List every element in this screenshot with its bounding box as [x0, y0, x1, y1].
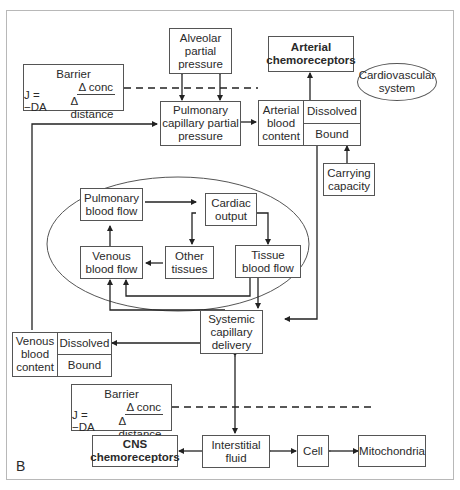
node-label: Cell — [303, 445, 323, 458]
node-label: Mitochondria — [359, 445, 425, 458]
equation-lhs: J = −DA — [24, 89, 64, 113]
node-label: Interstitial fluid — [203, 439, 269, 465]
alveolar-partial-pressure-node: Alveolar partial pressure — [169, 28, 232, 74]
dissolved-cell: Dissolved — [58, 333, 111, 355]
cell-node: Cell — [297, 435, 329, 467]
cardiac-output-node: Cardiac output — [205, 193, 257, 226]
node-label: Pulmonary blood flow — [81, 192, 142, 218]
equation-fraction: Δ conc Δ distance — [69, 81, 123, 121]
node-label: Systemic capillary delivery — [201, 313, 262, 352]
arterial-blood-content-node: Arterial blood content Dissolved Bound — [258, 100, 361, 146]
node-label: Other tissues — [166, 250, 213, 276]
other-tissues-node: Other tissues — [165, 246, 214, 279]
carrying-capacity-node: Carrying capacity — [323, 163, 375, 196]
equation-lhs: J = −DA — [72, 409, 112, 433]
node-label: Venous blood flow — [81, 250, 142, 276]
mitochondria-node: Mitochondria — [358, 435, 426, 467]
oval-text: Cardiovascular system — [358, 69, 436, 95]
tissue-blood-flow-node: Tissue blood flow — [235, 245, 301, 278]
venous-blood-flow-node: Venous blood flow — [80, 246, 143, 279]
denominator: Δ distance — [69, 95, 123, 121]
node-label: CNS chemoreceptors — [90, 438, 179, 464]
arterial-chemoreceptors-node: Arterial chemoreceptors — [268, 36, 354, 72]
numerator: Δ conc — [125, 401, 164, 415]
bound-cell: Bound — [304, 124, 360, 146]
systemic-capillary-delivery-node: Systemic capillary delivery — [200, 310, 263, 354]
numerator: Δ conc — [77, 81, 116, 95]
venous-blood-content-node: Venous blood content Dissolved Bound — [12, 332, 112, 377]
content-label: Arterial blood content — [259, 101, 304, 145]
pulmonary-blood-flow-node: Pulmonary blood flow — [80, 188, 143, 221]
panel-label: B — [16, 458, 25, 474]
interstitial-fluid-node: Interstitial fluid — [202, 435, 270, 468]
pulmonary-capillary-partial-pressure-node: Pulmonary capillary partial pressure — [160, 101, 241, 146]
node-label: Alveolar partial pressure — [170, 32, 231, 71]
node-label: Carrying capacity — [324, 167, 374, 193]
barrier-title: Barrier — [72, 388, 171, 400]
fick-equation: J = −DA Δ conc Δ distance — [24, 81, 123, 121]
bound-cell: Bound — [58, 355, 111, 376]
barrier-top: Barrier J = −DA Δ conc Δ distance — [23, 64, 124, 111]
node-label: Cardiac output — [206, 197, 256, 223]
node-label: Pulmonary capillary partial pressure — [161, 104, 240, 143]
cardiovascular-system-label: Cardiovascular system — [357, 63, 437, 101]
cns-chemoreceptors-node: CNS chemoreceptors — [92, 435, 178, 467]
dissolved-cell: Dissolved — [304, 101, 360, 124]
content-label: Venous blood content — [13, 333, 58, 376]
barrier-bottom: Barrier J = −DA Δ conc Δ distance — [71, 384, 172, 431]
node-label: Arterial chemoreceptors — [266, 41, 355, 67]
node-label: Tissue blood flow — [236, 249, 300, 275]
barrier-title: Barrier — [24, 68, 123, 80]
